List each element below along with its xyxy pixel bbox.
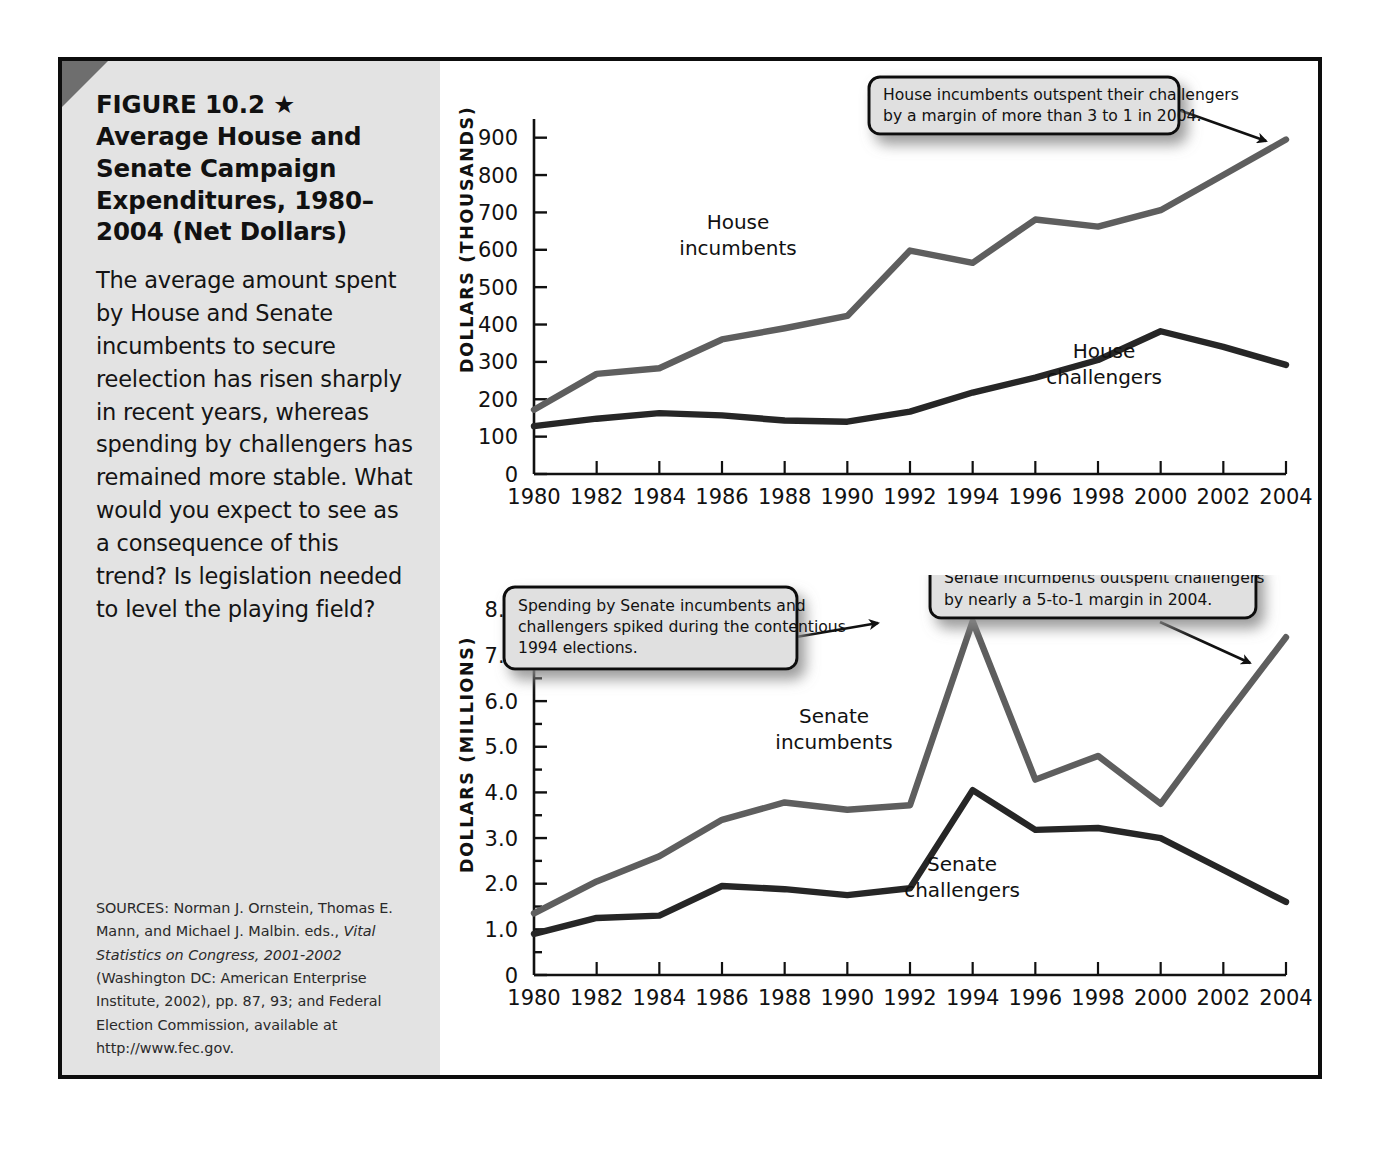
series-line-house-challengers	[534, 331, 1286, 426]
house-challengers-label: House challengers	[1046, 339, 1162, 389]
x-tick-label: 1988	[758, 986, 811, 1010]
x-tick-label: 1992	[883, 485, 936, 509]
figure-sidebar: FIGURE 10.2 ★ Average House and Senate C…	[62, 61, 440, 1075]
house-expenditures-chart: DOLLARS (THOUSANDS) 01002003004005006007…	[440, 61, 1318, 571]
senate-expenditures-chart: DOLLARS (MILLIONS) 01.02.03.04.05.06.07.…	[440, 575, 1318, 1075]
senate-challengers-label-l2: challengers	[904, 878, 1020, 902]
y-tick-label: 3.0	[485, 827, 518, 851]
x-tick-label: 1990	[821, 986, 874, 1010]
x-tick-label: 1998	[1071, 485, 1124, 509]
x-tick-label: 2002	[1197, 986, 1250, 1010]
charts-panel: DOLLARS (THOUSANDS) 01002003004005006007…	[440, 61, 1318, 1075]
house-callout-line-1: House incumbents outspent their challeng…	[883, 86, 1239, 104]
house-challengers-label-l1: House	[1073, 339, 1136, 363]
senate-1994-callout-line-3: 1994 elections.	[518, 639, 638, 657]
series-line-house-incumbents	[534, 140, 1286, 410]
senate-1994-callout-line-2: challengers spiked during the contentiou…	[518, 618, 846, 636]
y-tick-label: 6.0	[485, 690, 518, 714]
senate-2004-callout-line-2: by nearly a 5-to-1 margin in 2004.	[944, 591, 1212, 609]
senate-1994-callout-line-1: Spending by Senate incumbents and	[518, 597, 806, 615]
senate-incumbents-label-l1: Senate	[799, 704, 869, 728]
figure-sources: SOURCES: Norman J. Ornstein, Thomas E. M…	[96, 897, 418, 1060]
x-tick-label: 1986	[695, 485, 748, 509]
y-tick-label: 900	[478, 126, 518, 150]
x-tick-label: 2004	[1259, 485, 1312, 509]
y-tick-label: 0	[505, 463, 518, 487]
house-series-group	[534, 140, 1286, 427]
y-tick-label: 500	[478, 276, 518, 300]
senate-2004-callout-arrow	[1160, 622, 1250, 663]
house-y-axis-title: DOLLARS (THOUSANDS)	[457, 106, 477, 373]
x-tick-label: 1994	[946, 485, 999, 509]
house-x-tick-labels: 1980198219841986198819901992199419961998…	[507, 485, 1312, 509]
x-tick-label: 1990	[821, 485, 874, 509]
page-title: FIGURE 10.2 ★ Average House and Senate C…	[96, 89, 414, 248]
x-tick-label: 1996	[1009, 986, 1062, 1010]
figure-frame: FIGURE 10.2 ★ Average House and Senate C…	[58, 57, 1322, 1079]
y-tick-label: 800	[478, 164, 518, 188]
y-tick-label: 5.0	[485, 735, 518, 759]
y-tick-label: 200	[478, 388, 518, 412]
house-incumbents-label: House incumbents	[679, 210, 796, 260]
x-tick-label: 1980	[507, 485, 560, 509]
figure-caption: The average amount spent by House and Se…	[96, 264, 414, 625]
x-tick-label: 1984	[633, 485, 686, 509]
senate-x-tick-labels: 1980198219841986198819901992199419961998…	[507, 986, 1312, 1010]
y-tick-label: 0	[505, 964, 518, 988]
x-tick-label: 2002	[1197, 485, 1250, 509]
senate-incumbents-label: Senate incumbents	[775, 704, 892, 754]
senate-challengers-label: Senate challengers	[904, 852, 1020, 902]
y-tick-label: 2.0	[485, 872, 518, 896]
x-tick-label: 2004	[1259, 986, 1312, 1010]
x-tick-label: 1982	[570, 485, 623, 509]
y-tick-label: 1.0	[485, 918, 518, 942]
y-tick-label: 700	[478, 201, 518, 225]
x-tick-label: 1984	[633, 986, 686, 1010]
house-y-tick-labels: 0100200300400500600700800900	[478, 126, 518, 486]
x-tick-label: 2000	[1134, 986, 1187, 1010]
senate-challengers-label-l1: Senate	[927, 852, 997, 876]
senate-incumbents-label-l2: incumbents	[775, 730, 892, 754]
y-tick-label: 4.0	[485, 781, 518, 805]
house-incumbents-label-l2: incumbents	[679, 236, 796, 260]
house-incumbents-label-l1: House	[707, 210, 770, 234]
house-callout-line-2: by a margin of more than 3 to 1 in 2004.	[883, 107, 1201, 125]
figure-page: FIGURE 10.2 ★ Average House and Senate C…	[0, 0, 1384, 1158]
x-tick-label: 1988	[758, 485, 811, 509]
x-tick-label: 1996	[1009, 485, 1062, 509]
x-tick-label: 1994	[946, 986, 999, 1010]
house-challengers-label-l2: challengers	[1046, 365, 1162, 389]
y-tick-label: 600	[478, 238, 518, 262]
senate-y-axis-title: DOLLARS (MILLIONS)	[457, 636, 477, 873]
x-tick-label: 2000	[1134, 485, 1187, 509]
senate-x-ticks	[597, 962, 1286, 975]
x-tick-label: 1992	[883, 986, 936, 1010]
x-tick-label: 1998	[1071, 986, 1124, 1010]
y-tick-label: 300	[478, 350, 518, 374]
x-tick-label: 1986	[695, 986, 748, 1010]
senate-2004-callout-line-1: Senate incumbents outspent challengers	[944, 575, 1264, 587]
house-x-ticks	[597, 461, 1286, 474]
y-tick-label: 400	[478, 313, 518, 337]
house-axis-lines	[534, 119, 1286, 474]
corner-wedge-decoration	[62, 61, 108, 107]
x-tick-label: 1980	[507, 986, 560, 1010]
y-tick-label: 100	[478, 425, 518, 449]
sources-suffix: (Washington DC: American Enterprise Inst…	[96, 970, 382, 1056]
x-tick-label: 1982	[570, 986, 623, 1010]
